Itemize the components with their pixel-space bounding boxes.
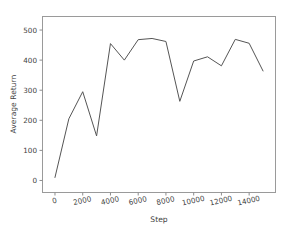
y-tick-label: 500 [23, 26, 37, 35]
x-axis-label: Step [150, 215, 167, 224]
y-axis-label: Average Return [9, 74, 18, 133]
y-tick-label: 0 [32, 176, 37, 185]
y-tick-label: 100 [23, 146, 37, 155]
y-tick-label: 300 [23, 86, 37, 95]
chart-figure: 0100200300400500 02000400060008000100001… [0, 0, 289, 231]
line-chart: 0100200300400500 02000400060008000100001… [0, 0, 289, 231]
y-tick-label: 400 [23, 56, 37, 65]
y-tick-label: 200 [23, 116, 37, 125]
